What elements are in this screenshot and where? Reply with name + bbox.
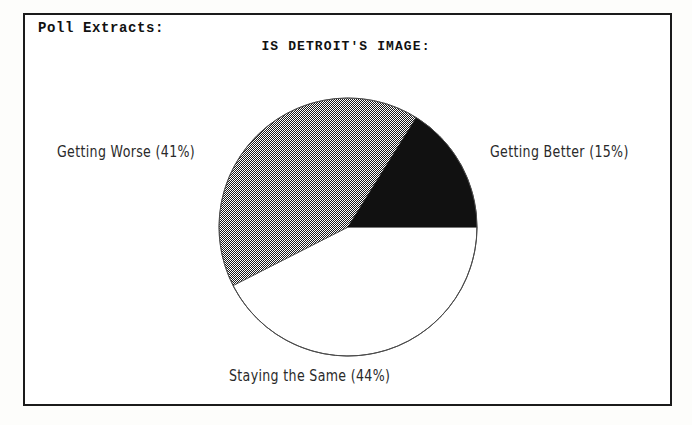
pie-chart-svg: [218, 97, 478, 357]
pie-label-getting-worse: Getting Worse (41%): [57, 143, 195, 161]
section-title: Poll Extracts:: [38, 20, 164, 36]
pie-chart: [218, 97, 478, 357]
pie-label-staying-the-same: Staying the Same (44%): [229, 367, 390, 385]
figure-page: Poll Extracts: IS DETROIT'S IMAGE: Getti…: [0, 0, 692, 425]
chart-title: IS DETROIT'S IMAGE:: [0, 39, 692, 54]
pie-label-getting-better: Getting Better (15%): [490, 143, 629, 161]
